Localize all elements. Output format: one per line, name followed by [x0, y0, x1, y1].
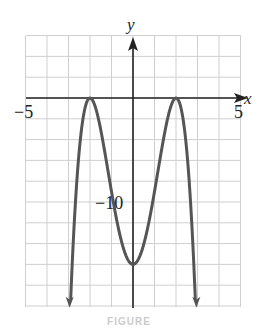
- y-tick-label: −10: [95, 193, 123, 213]
- x-axis-label: x: [243, 89, 252, 108]
- y-axis-label: y: [125, 15, 135, 34]
- polynomial-graph: y x −5 5 −10: [0, 0, 258, 330]
- x-max-label: 5: [234, 102, 243, 122]
- figure-caption: FIGURE: [0, 316, 258, 327]
- x-min-label: −5: [14, 102, 33, 122]
